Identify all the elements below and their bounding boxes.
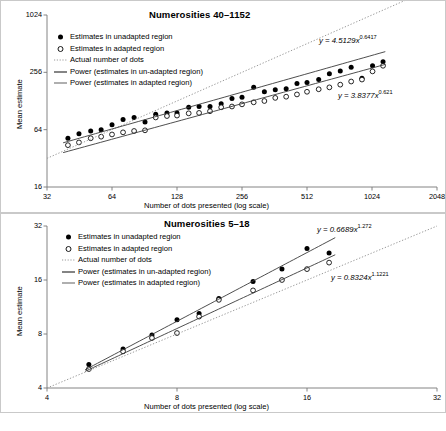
legend-label: Power (estimates in adapted region) (78, 278, 200, 287)
data-point-adapted (327, 85, 332, 90)
data-point-adapted (273, 95, 278, 100)
legend-label: Power (estimates in adapted region) (70, 78, 192, 87)
x-tick-label: 16 (287, 393, 327, 402)
x-tick-label: 1024 (352, 192, 392, 201)
data-point-adapted (295, 92, 300, 97)
data-point-adapted (349, 79, 354, 84)
legend-bottom: Estimates in unadapted region Estimates … (61, 231, 211, 289)
data-point-adapted (186, 111, 191, 116)
legend-label: Actual number of dots (78, 255, 152, 264)
data-point-unadapted (208, 104, 213, 109)
data-point-adapted (110, 132, 115, 137)
y-tick-label: 8 (11, 329, 42, 338)
data-point-unadapted (240, 95, 245, 100)
y-tick-label: 64 (11, 125, 42, 134)
equation-text: y = 0.8324x (331, 273, 372, 282)
legend-item-unadapted-points: Estimates in unadapted region (61, 231, 211, 243)
data-point-unadapted (327, 71, 332, 76)
equation-text: y = 4.5129x (319, 36, 360, 45)
equation-unadapted-top: y = 4.5129x0.6417 (319, 34, 377, 45)
x-tick-label: 256 (222, 192, 262, 201)
data-point-adapted (121, 130, 126, 135)
data-point-unadapted (294, 81, 299, 86)
equation-exponent: 0.6417 (360, 34, 377, 40)
data-point-unadapted (305, 80, 310, 85)
equation-adapted-top: y = 3.8377x0.621 (338, 89, 393, 100)
y-tick-label: 16 (11, 275, 42, 284)
legend-item-unadapted-points: Estimates in unadapted region (53, 31, 203, 43)
legend-label: Power (estimates in un-adapted region) (70, 67, 203, 76)
x-tick-label: 128 (157, 192, 197, 201)
y-tick-label: 1024 (11, 10, 42, 19)
legend-label: Estimates in unadapted region (70, 32, 173, 41)
data-point-unadapted (121, 117, 126, 122)
equation-exponent: 1.272 (358, 223, 372, 229)
data-point-unadapted (88, 128, 93, 133)
x-tick-label: 512 (287, 192, 327, 201)
x-tick-label: 32 (27, 192, 67, 201)
legend-item-actual-dots: Actual number of dots (53, 54, 203, 66)
open-circle-icon (61, 243, 76, 255)
data-point-unadapted (65, 136, 70, 141)
legend-label: Actual number of dots (70, 55, 144, 64)
data-point-adapted (66, 143, 71, 148)
data-point-unadapted (305, 246, 310, 251)
dotted-line-icon (53, 54, 68, 66)
y-tick-label: 4 (11, 383, 42, 392)
data-point-adapted (338, 82, 343, 87)
data-point-adapted (99, 134, 104, 139)
solid-line-icon (53, 77, 68, 89)
solid-line-icon (53, 66, 68, 78)
filled-circle-icon (61, 231, 76, 243)
x-tick-label: 2048 (417, 192, 446, 201)
data-point-unadapted (349, 65, 354, 70)
data-point-unadapted (262, 89, 267, 94)
chart-panel-bottom: Numerosities 5–18 Mean estimate Number o… (0, 213, 446, 413)
data-point-unadapted (76, 131, 81, 136)
legend-label: Estimates in adapted region (70, 44, 164, 53)
data-point-adapted (262, 99, 267, 104)
data-point-unadapted (110, 122, 115, 127)
x-axis-label-bottom: Number of dots presented (log scale) (144, 402, 269, 411)
data-point-adapted (370, 69, 375, 74)
figure-sheet: Numerosities 40–1152 Mean estimate Numbe… (0, 0, 446, 431)
solid-line-icon (61, 266, 76, 278)
x-tick-label: 32 (417, 393, 446, 402)
data-point-adapted (175, 113, 180, 118)
x-tick-label: 8 (157, 393, 197, 402)
legend-top: Estimates in unadapted region Estimates … (53, 31, 203, 89)
equation-text: y = 0.6689x (317, 225, 358, 234)
legend-item-adapted-points: Estimates in adapted region (61, 243, 211, 255)
data-point-unadapted (284, 86, 289, 91)
solid-line-icon (61, 277, 76, 289)
chart-title-top: Numerosities 40–1152 (149, 9, 250, 20)
legend-item-power-unadapted: Power (estimates in un-adapted region) (61, 266, 211, 278)
data-point-unadapted (338, 68, 343, 73)
data-point-unadapted (273, 87, 278, 92)
legend-item-adapted-points: Estimates in adapted region (53, 43, 203, 55)
legend-item-actual-dots: Actual number of dots (61, 254, 211, 266)
data-point-adapted (284, 94, 289, 99)
legend-item-power-unadapted: Power (estimates in un-adapted region) (53, 66, 203, 78)
legend-label: Estimates in adapted region (78, 244, 172, 253)
chart-title-bottom: Numerosities 5–18 (164, 218, 250, 229)
dotted-line-icon (61, 254, 76, 266)
data-point-adapted (327, 260, 332, 265)
data-point-adapted (360, 77, 365, 82)
equation-text: y = 3.8377x (338, 91, 379, 100)
legend-item-power-adapted: Power (estimates in adapted region) (53, 77, 203, 89)
data-point-unadapted (279, 267, 284, 272)
legend-label: Estimates in unadapted region (78, 232, 181, 241)
chart-panel-top: Numerosities 40–1152 Mean estimate Numbe… (0, 0, 446, 213)
data-point-unadapted (229, 96, 234, 101)
equation-exponent: 0.621 (379, 89, 393, 95)
y-tick-label: 16 (11, 182, 42, 191)
data-point-adapted (316, 87, 321, 92)
legend-label: Power (estimates in un-adapted region) (78, 267, 211, 276)
x-axis-label-top: Number of dots presented (log scale) (144, 201, 269, 210)
equation-adapted-bottom: y = 0.8324x1.1221 (331, 271, 389, 282)
y-axis-label-top: Mean estimate (15, 79, 24, 129)
legend-item-power-adapted: Power (estimates in adapted region) (61, 277, 211, 289)
data-point-adapted (305, 89, 310, 94)
data-point-unadapted (316, 77, 321, 82)
